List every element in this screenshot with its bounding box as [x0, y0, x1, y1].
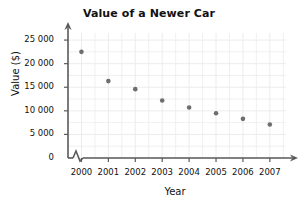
axis-lines: [64, 22, 298, 162]
data-point: [79, 50, 84, 55]
data-point: [160, 98, 165, 103]
x-tick-label: 2007: [253, 167, 287, 177]
data-point: [106, 79, 111, 84]
data-point: [187, 105, 192, 110]
data-point: [214, 111, 219, 116]
data-point: [241, 117, 246, 122]
data-point: [268, 122, 273, 127]
chart-container: Value of a Newer Car Value ($) Year 05 0…: [0, 0, 298, 206]
horizontal-gridlines: [68, 40, 286, 158]
data-point: [133, 87, 138, 92]
